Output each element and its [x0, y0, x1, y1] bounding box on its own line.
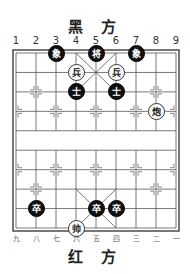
file-label: 一: [168, 233, 184, 243]
black-piece[interactable]: 象: [128, 45, 145, 62]
file-label: 八: [28, 233, 44, 243]
red-piece[interactable]: 兵: [68, 64, 85, 81]
black-piece[interactable]: 卒: [88, 200, 105, 217]
black-piece[interactable]: 将: [88, 45, 105, 62]
black-piece[interactable]: 士: [108, 83, 125, 100]
file-label: 三: [128, 233, 144, 243]
black-piece[interactable]: 卒: [28, 200, 45, 217]
red-side-title: 红 方: [0, 245, 190, 266]
file-label: 九: [8, 233, 24, 243]
red-piece[interactable]: 炮: [148, 103, 165, 120]
file-label: 四: [108, 233, 124, 243]
file-label: 五: [88, 233, 104, 243]
black-piece[interactable]: 卒: [108, 200, 125, 217]
black-piece[interactable]: 象: [48, 45, 65, 62]
file-label: 六: [68, 233, 84, 243]
file-label: 二: [148, 233, 164, 243]
red-piece[interactable]: 兵: [108, 64, 125, 81]
file-label: 七: [48, 233, 64, 243]
black-piece[interactable]: 士: [68, 83, 85, 100]
